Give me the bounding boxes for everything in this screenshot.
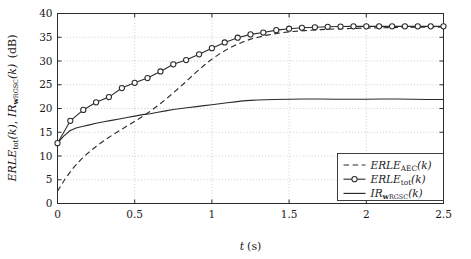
data-point-marker <box>94 100 99 105</box>
data-point-marker <box>312 25 317 30</box>
data-point-marker <box>415 24 420 29</box>
data-point-marker <box>377 24 382 29</box>
data-point-marker <box>132 80 137 85</box>
legend-marker-icon <box>352 177 357 182</box>
data-point-marker <box>389 24 394 29</box>
data-point-marker <box>209 46 214 51</box>
x-tick-label: 2 <box>363 208 370 220</box>
data-point-marker <box>68 118 73 123</box>
data-point-marker <box>261 30 266 35</box>
y-tick-label: 15 <box>39 126 52 138</box>
chart-figure: 051015202530354000.511.522.5t(s)ERLEtot(… <box>0 0 471 259</box>
data-point-marker <box>338 24 343 29</box>
data-point-marker <box>248 32 253 37</box>
data-point-marker <box>441 24 446 29</box>
data-point-marker <box>299 25 304 30</box>
series-line-ir-wrgsc <box>58 99 444 143</box>
x-tick-label: 1.5 <box>281 208 298 220</box>
y-tick-label: 35 <box>39 31 52 43</box>
y-tick-label: 25 <box>39 78 52 90</box>
data-point-marker <box>171 62 176 67</box>
y-tick-label: 10 <box>39 150 52 162</box>
x-axis-label: t(s) <box>240 240 262 253</box>
y-tick-label: 5 <box>46 173 53 185</box>
y-tick-label: 30 <box>39 55 52 67</box>
data-point-marker <box>222 40 227 45</box>
data-point-marker <box>184 57 189 62</box>
chart-svg: 051015202530354000.511.522.5t(s)ERLEtot(… <box>0 0 471 259</box>
y-tick-label: 40 <box>39 7 52 19</box>
data-point-marker <box>55 141 60 146</box>
data-point-marker <box>158 69 163 74</box>
data-point-marker <box>325 24 330 29</box>
data-point-marker <box>364 24 369 29</box>
y-axis-label: ERLEtot(k), IRwRGSC(k) (dB) <box>6 35 20 183</box>
data-point-marker <box>287 26 292 31</box>
data-point-marker <box>106 95 111 100</box>
x-tick-label: 0 <box>54 208 61 220</box>
data-point-marker <box>81 107 86 112</box>
x-tick-label: 1 <box>209 208 216 220</box>
data-point-marker <box>351 24 356 29</box>
data-point-marker <box>428 24 433 29</box>
y-tick-label: 0 <box>46 197 53 209</box>
x-tick-label: 2.5 <box>435 208 452 220</box>
data-point-marker <box>196 52 201 57</box>
data-point-marker <box>402 24 407 29</box>
y-tick-label: 20 <box>39 102 52 114</box>
x-tick-label: 0.5 <box>126 208 143 220</box>
data-point-marker <box>235 35 240 40</box>
data-point-marker <box>145 76 150 81</box>
data-point-marker <box>119 85 124 90</box>
data-point-marker <box>274 28 279 33</box>
